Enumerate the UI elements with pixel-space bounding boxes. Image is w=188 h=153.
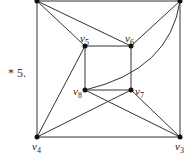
label-v6: v6 bbox=[125, 33, 134, 47]
label-v4: v4 bbox=[32, 141, 41, 153]
edge-v2-v6 bbox=[131, 1, 180, 46]
label-v8: v8 bbox=[73, 86, 82, 100]
edge-v4-v7 bbox=[37, 90, 131, 137]
label-v7: v7 bbox=[135, 86, 144, 100]
vertex-v7 bbox=[129, 88, 134, 93]
graph-diagram bbox=[0, 0, 188, 153]
vertex-v4 bbox=[35, 135, 40, 140]
problem-number: * 5. bbox=[8, 66, 26, 81]
vertex-v3 bbox=[178, 135, 183, 140]
edge-v1-v5 bbox=[37, 1, 85, 46]
label-v5: v5 bbox=[80, 33, 89, 47]
vertex-v8 bbox=[83, 88, 88, 93]
label-v3: v3 bbox=[175, 141, 184, 153]
edge-v3-v8 bbox=[85, 90, 180, 137]
